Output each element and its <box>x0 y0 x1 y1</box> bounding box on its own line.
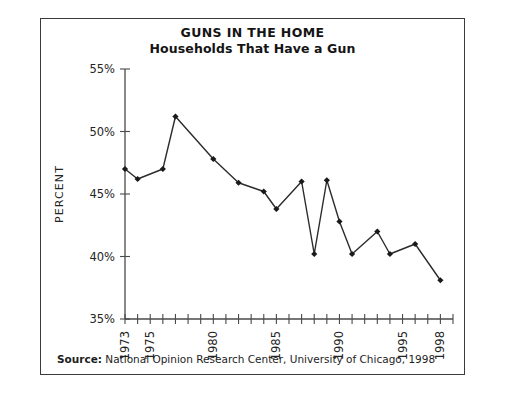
source-note: Source: National Opinion Research Center… <box>41 352 464 366</box>
data-point-1989 <box>324 177 330 183</box>
data-point-1994 <box>387 251 393 257</box>
data-point-1976 <box>160 166 166 172</box>
y-tick-label-50%: 50% <box>89 125 115 139</box>
y-tick-label-55%: 55% <box>89 62 115 76</box>
data-point-1990 <box>336 218 342 224</box>
y-axis-title: PERCENT <box>53 165 66 223</box>
series-line-households-with-gun <box>125 117 440 281</box>
chart-axes: 35%40%45%50%55% 197319751980198519901995… <box>53 62 453 360</box>
data-series-group <box>122 113 444 283</box>
y-axis-tick-labels: 35%40%45%50%55% <box>89 62 115 326</box>
y-tick-label-35%: 35% <box>89 312 115 326</box>
y-tick-label-40%: 40% <box>89 250 115 264</box>
chart-figure-panel: GUNS IN THE HOME Households That Have a … <box>40 18 465 375</box>
y-tick-label-45%: 45% <box>89 187 115 201</box>
data-point-1988 <box>311 251 317 257</box>
source-label: Source: <box>57 353 102 365</box>
source-text: National Opinion Research Center, Univer… <box>102 353 435 365</box>
line-chart-plot: 35%40%45%50%55% 197319751980198519901995… <box>41 19 466 376</box>
